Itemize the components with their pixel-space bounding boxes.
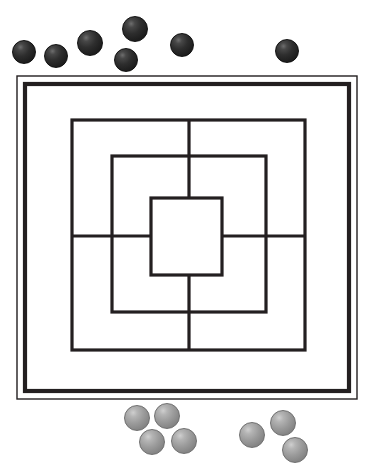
inner-ring — [151, 198, 222, 275]
light-7[interactable] — [282, 437, 308, 463]
dark-7[interactable] — [275, 39, 299, 63]
light-3[interactable] — [139, 429, 165, 455]
dark-4[interactable] — [122, 16, 148, 42]
dark-2[interactable] — [44, 44, 68, 68]
board-connectors — [72, 120, 305, 350]
dark-1[interactable] — [12, 40, 36, 64]
light-4[interactable] — [171, 428, 197, 454]
dark-5[interactable] — [114, 48, 138, 72]
nine-mens-morris-board — [0, 0, 371, 476]
light-1[interactable] — [124, 405, 150, 431]
board-scene — [0, 0, 371, 476]
dark-6[interactable] — [170, 33, 194, 57]
dark-3[interactable] — [77, 30, 103, 56]
light-2[interactable] — [154, 403, 180, 429]
light-5[interactable] — [239, 422, 265, 448]
light-6[interactable] — [270, 410, 296, 436]
